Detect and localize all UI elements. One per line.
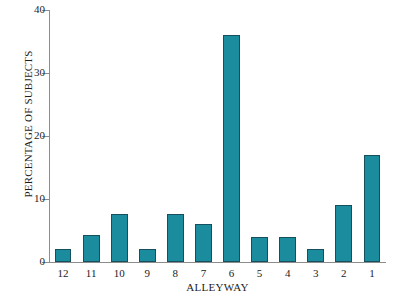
bar [335, 205, 352, 262]
bar-group: 5 [246, 10, 274, 262]
x-axis-tick-label: 8 [161, 266, 189, 280]
bar-group: 7 [189, 10, 217, 262]
x-axis-tick-label: 7 [189, 266, 217, 280]
y-axis-tick-label: 30 [34, 65, 45, 80]
bar [251, 237, 268, 262]
bar-group: 1 [358, 10, 386, 262]
x-axis-tick-label: 10 [105, 266, 133, 280]
y-axis-tick-label: 10 [34, 191, 45, 206]
bar-group: 11 [77, 10, 105, 262]
y-axis-tick-label: 0 [40, 254, 46, 269]
x-axis-tick-label: 12 [49, 266, 77, 280]
x-axis-title: ALLEYWAY [49, 281, 386, 293]
bar [55, 249, 72, 262]
bar-group: 10 [105, 10, 133, 262]
bar [139, 249, 156, 262]
y-axis-title: PERCENTAGE OF SUBJECTS [22, 29, 34, 219]
plot-area: 010203040 121110987654321 [49, 10, 386, 262]
x-axis-tick-label: 6 [218, 266, 246, 280]
y-axis-tick-label: 20 [34, 128, 45, 143]
bar-group: 4 [274, 10, 302, 262]
bar-group: 12 [49, 10, 77, 262]
bar-group: 3 [302, 10, 330, 262]
x-axis-tick-label: 3 [302, 266, 330, 280]
bar-group: 9 [133, 10, 161, 262]
x-axis-tick-label: 5 [246, 266, 274, 280]
bar-group: 6 [218, 10, 246, 262]
bar-group: 8 [161, 10, 189, 262]
bar [167, 214, 184, 262]
y-axis-tick-label: 40 [34, 2, 45, 17]
bar [195, 224, 212, 262]
x-axis-tick-label: 11 [77, 266, 105, 280]
x-axis-tick-label: 1 [358, 266, 386, 280]
bar [364, 155, 381, 262]
bar-group: 2 [330, 10, 358, 262]
bar [223, 35, 240, 262]
x-axis-tick-label: 4 [274, 266, 302, 280]
x-axis-tick-label: 2 [330, 266, 358, 280]
bar [111, 214, 128, 263]
bar-series: 121110987654321 [49, 10, 386, 262]
bar [83, 235, 100, 262]
bar [307, 249, 324, 262]
x-axis-line [49, 262, 386, 263]
x-axis-tick-label: 9 [133, 266, 161, 280]
bar-chart-figure: PERCENTAGE OF SUBJECTS 010203040 1211109… [0, 0, 397, 305]
bar [279, 237, 296, 262]
